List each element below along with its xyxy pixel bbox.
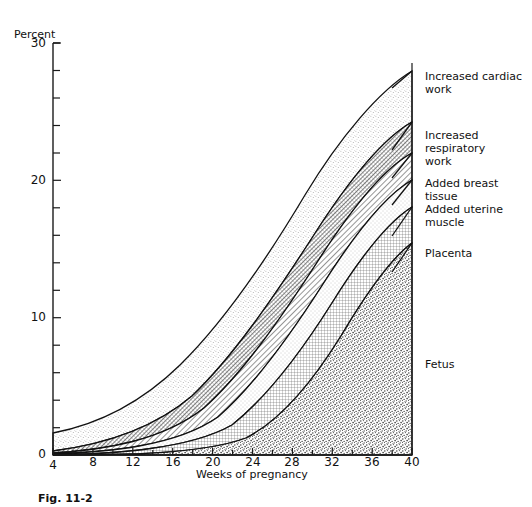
y-tick-label-30: 30 (14, 36, 46, 50)
x-tick-label-24: 24 (238, 455, 268, 469)
x-tick-label-4: 4 (38, 458, 68, 472)
x-tick-label-12: 12 (118, 455, 148, 469)
series-label-placenta: Placenta (425, 247, 472, 260)
x-tick-label-28: 28 (277, 455, 307, 469)
x-tick-label-20: 20 (198, 455, 228, 469)
y-tick-label-20: 20 (14, 173, 46, 187)
x-tick-label-36: 36 (357, 455, 387, 469)
series-label-increased-respiratory-work: Increased respiratory work (425, 129, 532, 168)
x-tick-label-16: 16 (158, 455, 188, 469)
x-tick-label-40: 40 (397, 455, 427, 469)
series-label-increased-cardiac-work: Increased cardiac work (425, 70, 522, 96)
series-label-added-breast-tissue: Added breast tissue (425, 177, 532, 203)
x-axis-title: Weeks of pregnancy (196, 468, 308, 481)
plot-bands (53, 71, 412, 455)
series-label-fetus: Fetus (425, 358, 455, 371)
figure-caption: Fig. 11-2 (38, 492, 93, 505)
series-label-added-uterine-muscle: Added uterine muscle (425, 203, 503, 229)
x-tick-label-32: 32 (317, 455, 347, 469)
figure-stacked-area-chart: Percent Weeks of pregnancy 30 20 10 0 4 … (0, 0, 532, 507)
y-tick-label-10: 10 (14, 310, 46, 324)
y-axis-ticks (53, 43, 61, 455)
x-tick-label-8: 8 (78, 455, 108, 469)
